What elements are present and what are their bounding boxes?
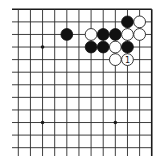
black-stone: [122, 41, 134, 53]
star-point: [114, 121, 118, 125]
black-stone-disc: [109, 29, 121, 41]
white-stone: [134, 29, 146, 41]
white-stone-disc: [134, 29, 146, 41]
black-stone: [109, 29, 121, 41]
star-point: [41, 45, 45, 49]
white-stone: [122, 29, 134, 41]
black-stone: [122, 16, 134, 28]
black-stone: [97, 29, 109, 41]
white-stone: [109, 54, 121, 66]
white-stone-disc: [122, 29, 134, 41]
star-point: [41, 121, 45, 125]
white-stone: [134, 16, 146, 28]
black-stone: [97, 41, 109, 53]
move-number-label: 1: [125, 56, 130, 65]
black-stone-disc: [97, 41, 109, 53]
black-stone-disc: [122, 41, 134, 53]
white-stone: [85, 29, 97, 41]
black-stone-disc: [85, 41, 97, 53]
white-stone: [109, 41, 121, 53]
black-stone-disc: [61, 29, 73, 41]
white-stone-disc: [134, 16, 146, 28]
black-stone-disc: [122, 16, 134, 28]
white-stone-disc: [109, 54, 121, 66]
black-stone: [85, 41, 97, 53]
black-stone: [61, 29, 73, 41]
go-board: 1: [0, 0, 160, 162]
white-stone-disc: [109, 41, 121, 53]
white-stone: 1: [122, 54, 134, 66]
white-stone-disc: [85, 29, 97, 41]
black-stone-disc: [97, 29, 109, 41]
